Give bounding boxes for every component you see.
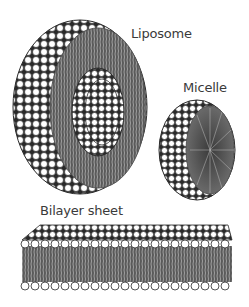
micelle-graphic xyxy=(159,100,235,200)
liposome-graphic xyxy=(13,20,147,194)
liposome-label: Liposome xyxy=(131,26,192,41)
bilayer-sheet-graphic xyxy=(21,225,232,290)
micelle-label: Micelle xyxy=(183,80,227,95)
lipid-diagram xyxy=(0,0,249,307)
bilayer-sheet-label: Bilayer sheet xyxy=(40,203,123,218)
